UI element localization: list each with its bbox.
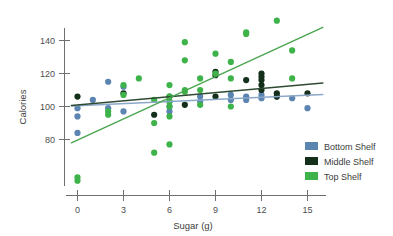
data-point xyxy=(258,95,264,101)
trend-line-top-shelf xyxy=(71,27,322,143)
data-point xyxy=(197,75,203,81)
trend-line-middle-shelf xyxy=(71,83,322,105)
data-point xyxy=(197,87,203,93)
data-point xyxy=(120,92,126,98)
data-point xyxy=(228,97,234,103)
data-point xyxy=(120,108,126,114)
data-point xyxy=(105,79,111,85)
y-tick-label-140: 140 xyxy=(40,36,55,46)
y-axis-title: Calories xyxy=(17,89,28,124)
data-point xyxy=(182,39,188,45)
data-point xyxy=(74,94,80,100)
y-tick-label-100: 100 xyxy=(40,102,55,112)
data-point xyxy=(166,82,172,88)
data-point xyxy=(243,31,249,37)
legend: Bottom Shelf Middle Shelf Top Shelf xyxy=(305,142,376,182)
legend-item-top-shelf[interactable]: Top Shelf xyxy=(305,172,362,182)
legend-label-middle-shelf: Middle Shelf xyxy=(324,157,374,167)
data-point xyxy=(182,102,188,108)
data-point xyxy=(74,130,80,136)
data-point xyxy=(136,75,142,81)
data-point xyxy=(274,18,280,24)
x-tick-label-3: 3 xyxy=(121,205,126,215)
data-point xyxy=(289,47,295,53)
legend-swatch-middle-shelf xyxy=(305,157,318,165)
x-tick-label-12: 12 xyxy=(256,205,266,215)
legend-item-middle-shelf[interactable]: Middle Shelf xyxy=(305,157,374,167)
legend-label-bottom-shelf: Bottom Shelf xyxy=(324,142,376,152)
data-point xyxy=(74,113,80,119)
data-point xyxy=(105,112,111,118)
y-tick-label-120: 120 xyxy=(40,69,55,79)
data-point xyxy=(243,77,249,83)
data-point xyxy=(74,178,80,184)
x-axis: 0 3 6 9 12 15 Sugar (g) xyxy=(66,190,326,231)
data-point xyxy=(197,102,203,108)
data-point xyxy=(304,105,310,111)
data-point xyxy=(212,51,218,57)
legend-swatch-top-shelf xyxy=(305,172,318,180)
data-point xyxy=(228,103,234,109)
data-point xyxy=(182,57,188,63)
y-axis-tick-labels: 140 120 100 80 xyxy=(40,36,55,145)
trend-lines-layer xyxy=(71,27,322,143)
legend-label-top-shelf: Top Shelf xyxy=(324,172,362,182)
data-point xyxy=(166,141,172,147)
data-point xyxy=(166,113,172,119)
data-point xyxy=(166,103,172,109)
y-tick-label-80: 80 xyxy=(45,135,55,145)
data-point xyxy=(289,75,295,81)
x-tick-label-6: 6 xyxy=(167,205,172,215)
data-point xyxy=(228,75,234,81)
y-axis: 140 120 100 80 Calories xyxy=(17,28,70,186)
x-axis-title: Sugar (g) xyxy=(173,220,213,231)
data-point xyxy=(228,59,234,65)
data-point xyxy=(120,82,126,88)
legend-swatch-bottom-shelf xyxy=(305,142,318,150)
data-point xyxy=(151,112,157,118)
data-point xyxy=(151,120,157,126)
x-tick-label-9: 9 xyxy=(213,205,218,215)
x-axis-tick-labels: 0 3 6 9 12 15 xyxy=(75,205,313,215)
legend-item-bottom-shelf[interactable]: Bottom Shelf xyxy=(305,142,376,152)
scatter-chart: 140 120 100 80 Calories 0 3 6 9 xyxy=(0,0,393,236)
x-tick-label-0: 0 xyxy=(75,205,80,215)
data-point xyxy=(90,97,96,103)
data-point xyxy=(151,150,157,156)
chart-canvas: 140 120 100 80 Calories 0 3 6 9 xyxy=(0,0,393,236)
x-tick-label-15: 15 xyxy=(302,205,312,215)
